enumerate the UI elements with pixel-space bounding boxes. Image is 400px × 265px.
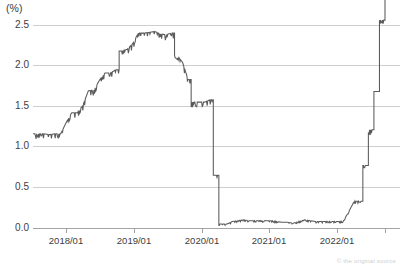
credit-watermark: © the original source bbox=[337, 258, 396, 264]
chart-container: (%) 2.5 2.0 1.5 1.0 0.5 0.0 201 bbox=[0, 0, 400, 265]
x-tick-marks-group bbox=[66, 228, 385, 233]
ytick-label-1.0: 1.0 bbox=[15, 140, 29, 151]
xtick-label-2021: 2021/01 bbox=[252, 235, 286, 246]
ytick-label-0.0: 0.0 bbox=[15, 222, 29, 233]
ytick-label-0.5: 0.5 bbox=[15, 181, 29, 192]
ytick-label-2.0: 2.0 bbox=[15, 59, 29, 70]
ytick-label-2.5: 2.5 bbox=[15, 19, 29, 30]
series-line-policy-rate bbox=[33, 0, 393, 225]
y-tick-labels-group: 2.5 2.0 1.5 1.0 0.5 0.0 bbox=[15, 19, 29, 233]
xtick-label-2020: 2020/01 bbox=[185, 235, 219, 246]
xtick-label-2018: 2018/01 bbox=[49, 235, 83, 246]
ytick-label-1.5: 1.5 bbox=[15, 100, 29, 111]
xtick-label-2019: 2019/01 bbox=[117, 235, 151, 246]
gridlines-group bbox=[33, 25, 400, 228]
xtick-label-2022: 2022/01 bbox=[320, 235, 354, 246]
line-chart-plot: 2.5 2.0 1.5 1.0 0.5 0.0 2018/01 2019/01 … bbox=[0, 0, 400, 265]
x-tick-labels-group: 2018/01 2019/01 2020/01 2021/01 2022/01 bbox=[49, 235, 354, 246]
